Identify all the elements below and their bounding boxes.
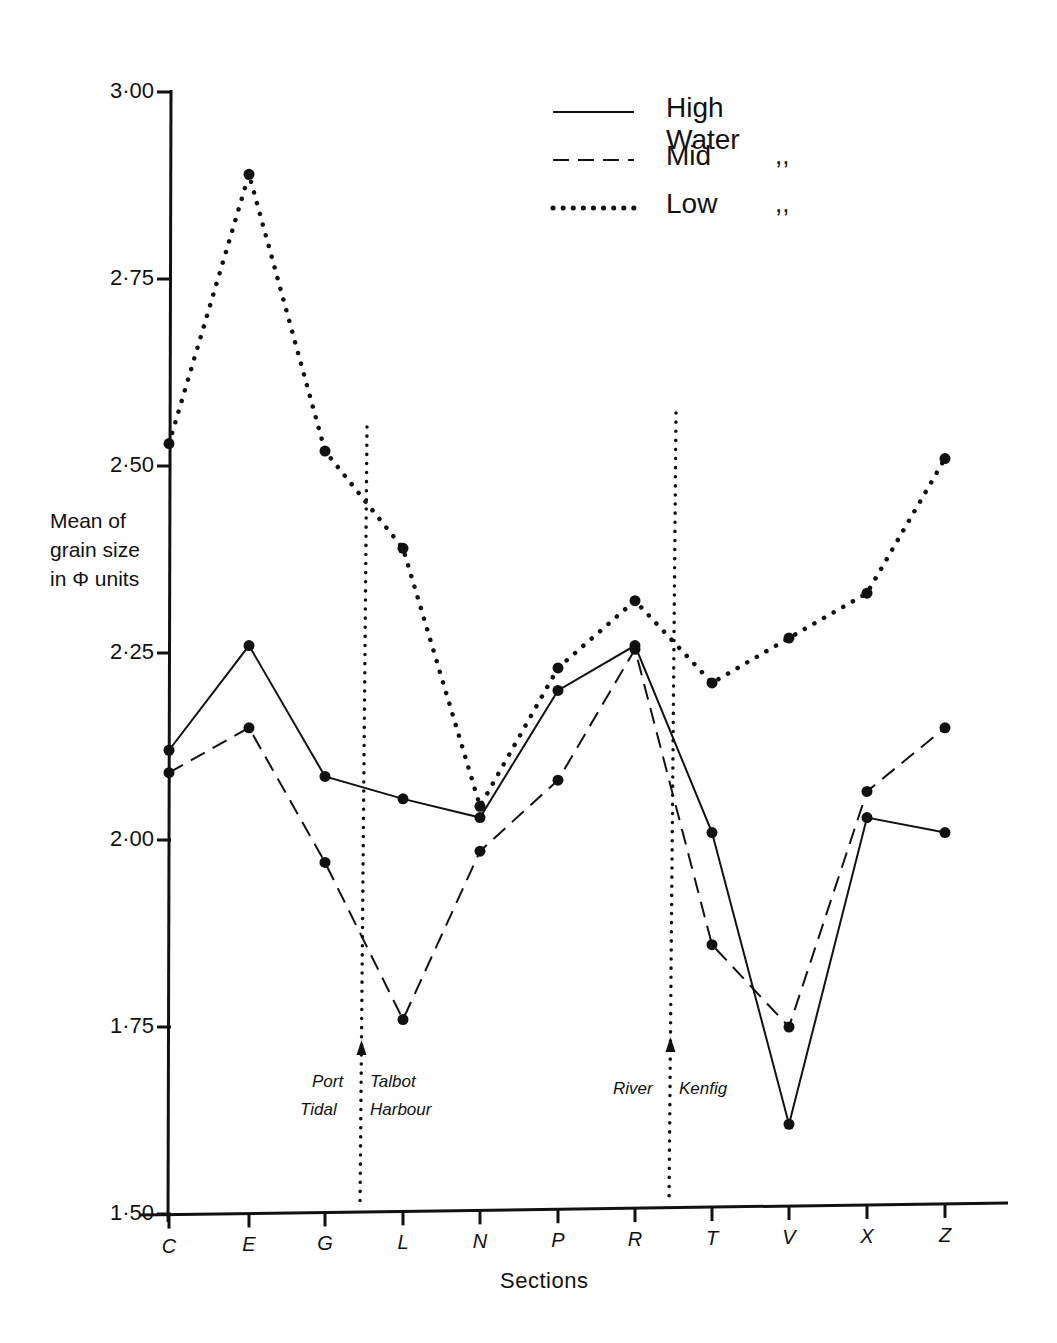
line-chart-plot — [0, 0, 1057, 1343]
data-point — [862, 786, 873, 797]
y-axis-label-line-2: grain size — [50, 535, 140, 564]
data-point — [164, 438, 175, 449]
legend-label: Low — [666, 188, 717, 220]
x-category-label: C — [154, 1235, 184, 1258]
boundary-dotted-line — [669, 413, 676, 1203]
data-point — [475, 801, 486, 812]
y-tick-label: 2·00 — [74, 826, 154, 852]
y-tick-label: 3·00 — [74, 78, 154, 104]
data-point — [553, 775, 564, 786]
x-category-label: N — [465, 1230, 495, 1253]
y-axis-line — [168, 90, 171, 1222]
data-point — [784, 1022, 795, 1033]
data-point — [940, 453, 951, 464]
data-point — [244, 169, 255, 180]
data-point — [164, 745, 175, 756]
data-point — [475, 812, 486, 823]
x-category-label: E — [234, 1233, 264, 1256]
series-line-low — [169, 174, 945, 806]
data-point — [940, 722, 951, 733]
annotation-talbot: Talbot — [370, 1072, 416, 1092]
data-point — [320, 857, 331, 868]
y-axis-label: Mean of grain size in Φ units — [50, 506, 140, 593]
data-point — [862, 812, 873, 823]
x-category-label: X — [852, 1225, 882, 1248]
y-axis-label-line-3: in Φ units — [50, 564, 140, 593]
arrow-up-icon — [357, 1040, 367, 1055]
annotation-kenfig: Kenfig — [679, 1079, 727, 1099]
x-category-label: G — [310, 1232, 340, 1255]
legend-swatches — [553, 112, 634, 208]
data-point — [707, 827, 718, 838]
arrow-up-icon — [665, 1037, 675, 1052]
y-tick-label: 2·50 — [74, 452, 154, 478]
x-category-label: T — [697, 1227, 727, 1250]
data-point — [784, 1119, 795, 1130]
data-point — [707, 677, 718, 688]
x-axis-label: Sections — [500, 1268, 588, 1294]
x-category-label: Z — [930, 1224, 960, 1247]
y-tick-label: 1·75 — [74, 1013, 154, 1039]
data-point — [164, 767, 175, 778]
legend-ditto: ,, — [775, 140, 789, 171]
y-tick-label: 1·50 — [74, 1200, 154, 1226]
data-point — [862, 588, 873, 599]
annotation-river: River — [613, 1079, 653, 1099]
x-category-label: R — [620, 1228, 650, 1251]
data-point — [398, 1014, 409, 1025]
x-category-label: L — [388, 1231, 418, 1254]
data-point — [940, 827, 951, 838]
annotation-harbour: Harbour — [370, 1100, 431, 1120]
x-category-label: P — [543, 1229, 573, 1252]
data-point — [784, 633, 795, 644]
data-point — [320, 771, 331, 782]
legend-label: Mid — [666, 140, 711, 172]
y-axis-label-line-1: Mean of — [50, 506, 140, 535]
data-point — [553, 685, 564, 696]
annotation-port: Port — [312, 1072, 343, 1092]
series-line-high-water — [169, 646, 945, 1125]
data-point — [707, 939, 718, 950]
data-point — [553, 662, 564, 673]
data-point — [398, 543, 409, 554]
data-series — [164, 169, 951, 1130]
data-point — [244, 722, 255, 733]
data-point — [475, 846, 486, 857]
data-point — [398, 793, 409, 804]
data-point — [630, 644, 641, 655]
data-point — [320, 446, 331, 457]
data-point — [244, 640, 255, 651]
y-tick-label: 2·75 — [74, 265, 154, 291]
axes — [140, 90, 1008, 1229]
legend-ditto: ,, — [775, 188, 789, 219]
x-axis-line — [140, 1203, 1008, 1215]
data-point — [630, 595, 641, 606]
x-category-label: V — [774, 1226, 804, 1249]
y-tick-label: 2·25 — [74, 639, 154, 665]
boundary-dotted-line — [360, 427, 367, 1208]
annotation-tidal: Tidal — [300, 1100, 337, 1120]
